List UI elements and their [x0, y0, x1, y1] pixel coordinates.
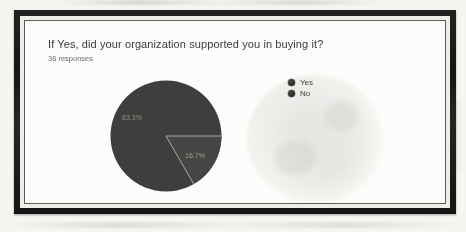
pie-label-yes: 83.3%	[122, 114, 142, 121]
legend-dot-icon	[288, 90, 295, 97]
scanned-page: If Yes, did your organization supported …	[0, 0, 466, 232]
legend-item-no: No	[288, 88, 313, 99]
bleedthrough-blotch	[275, 141, 315, 175]
pie-chart: 83.3% 16.7%	[110, 80, 222, 192]
legend-label: No	[300, 89, 310, 98]
bleedthrough-ghost-circle	[247, 75, 383, 203]
legend-dot-icon	[288, 79, 295, 86]
pie-label-no: 16.7%	[185, 152, 205, 159]
legend-label: Yes	[300, 78, 313, 87]
scan-smudge-top	[55, 0, 385, 5]
chart-legend: Yes No	[288, 77, 313, 99]
chart-title: If Yes, did your organization supported …	[48, 38, 323, 50]
legend-item-yes: Yes	[288, 77, 313, 88]
responses-count: 36 responses	[48, 54, 93, 63]
scan-smudge-bottom	[6, 222, 458, 228]
bleedthrough-blotch	[325, 101, 359, 131]
chart-card: If Yes, did your organization supported …	[25, 21, 441, 203]
